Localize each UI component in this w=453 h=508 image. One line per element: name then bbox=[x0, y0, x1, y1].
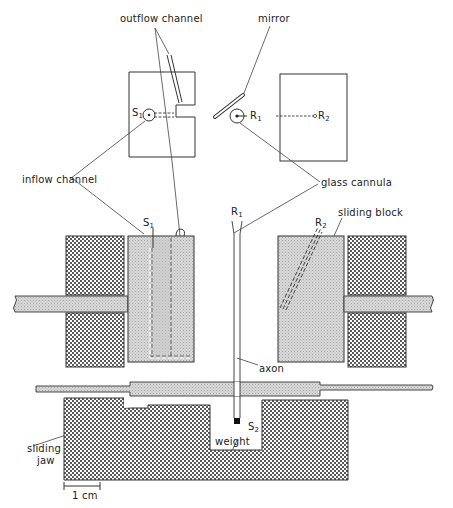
diagram-canvas bbox=[0, 0, 453, 508]
scale-bar bbox=[64, 482, 100, 490]
label-sliding-jaw-2: jaw bbox=[37, 456, 55, 466]
label-top-R1: R1 bbox=[250, 111, 262, 123]
label-S1: S1 bbox=[143, 218, 154, 230]
sliding-jaw bbox=[64, 398, 348, 480]
label-glass-cannula: glass cannula bbox=[321, 178, 392, 188]
label-S2: S2 bbox=[248, 422, 259, 434]
label-sliding-block: sliding block bbox=[338, 208, 403, 218]
right-upper-clamp-block bbox=[348, 236, 406, 295]
label-R2: R2 bbox=[315, 218, 327, 230]
label-top-S1: S1 bbox=[132, 108, 143, 120]
label-top-R2: R2 bbox=[318, 111, 330, 123]
label-weight: weight bbox=[215, 437, 250, 447]
label-axon: axon bbox=[259, 364, 284, 374]
left-lower-clamp-block bbox=[66, 313, 124, 367]
top-view-left-block bbox=[129, 55, 195, 157]
scale-bar-label: 1 cm bbox=[72, 491, 98, 501]
label-outflow-channel: outflow channel bbox=[120, 14, 203, 24]
left-rod bbox=[14, 296, 129, 312]
left-upper-clamp-block bbox=[66, 236, 124, 295]
apparatus-diagram: outflow channel mirror S1 R1 R2 inflow c… bbox=[0, 0, 453, 508]
label-mirror: mirror bbox=[258, 14, 290, 24]
label-sliding-jaw-1: sliding bbox=[27, 444, 61, 454]
label-inflow-channel: inflow channel bbox=[22, 175, 97, 185]
right-rod bbox=[344, 296, 434, 312]
right-lower-clamp-block bbox=[348, 313, 406, 367]
label-R1: R1 bbox=[231, 207, 243, 219]
weight-icon bbox=[234, 418, 240, 424]
